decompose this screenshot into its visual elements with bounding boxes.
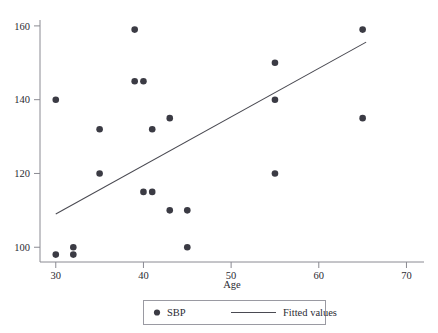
x-tick-label: 60 [314,270,325,281]
data-point-marker [70,251,77,258]
data-point-marker [131,78,138,85]
x-tick-label: 70 [401,270,412,281]
x-tick-label: 40 [138,270,149,281]
x-tick-label: 30 [51,270,62,281]
plot-canvas: 100120140160 3040506070 Age SBP Fitted v… [0,0,438,333]
y-tick-label: 160 [14,21,30,32]
data-point-marker [184,244,191,251]
data-point-marker [52,251,59,258]
legend-marker-sbp-icon [154,309,160,315]
data-point-marker [131,26,138,33]
scatter-chart: 100120140160 3040506070 Age SBP Fitted v… [0,0,438,333]
data-point-marker [149,126,156,133]
data-point-marker [149,189,156,196]
data-point-marker [272,96,279,103]
data-point-marker [272,59,279,66]
data-point-marker [52,96,59,103]
y-tick-label: 140 [14,94,30,105]
data-point-marker [96,170,103,177]
sbp-data-points [52,26,365,258]
data-point-marker [140,78,147,85]
y-axis-ticks: 100120140160 [14,21,40,253]
axes-group [40,20,424,262]
data-point-marker [166,207,173,214]
legend: SBP Fitted values [144,301,337,325]
data-point-marker [272,170,279,177]
y-tick-label: 120 [14,168,30,179]
data-point-marker [140,189,147,196]
data-point-marker [166,115,173,122]
data-point-marker [184,207,191,214]
x-axis-title: Age [223,279,241,290]
legend-label-sbp: SBP [167,307,186,318]
legend-label-fitted-values: Fitted values [283,307,337,318]
data-point-marker [359,26,366,33]
data-point-marker [359,115,366,122]
data-point-marker [96,126,103,133]
data-point-marker [70,244,77,251]
y-tick-label: 100 [14,242,30,253]
